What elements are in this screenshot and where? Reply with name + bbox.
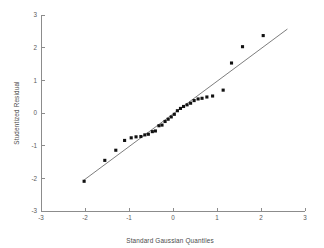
data-point — [164, 120, 167, 123]
data-point — [157, 124, 160, 127]
data-point — [170, 115, 173, 118]
data-point — [205, 95, 208, 98]
y-tick-label: -3 — [31, 207, 37, 214]
y-tick-label: 1 — [33, 77, 37, 84]
data-point — [211, 94, 214, 97]
y-tick-label: 0 — [33, 109, 37, 116]
plot-canvas: -3-2-10123 -3-2-10123 Standard Gaussian … — [0, 0, 324, 248]
data-point — [222, 89, 225, 92]
y-tick-label: 2 — [33, 44, 37, 51]
data-point — [241, 45, 244, 48]
data-point — [179, 107, 182, 110]
x-tick-label: -1 — [126, 214, 132, 221]
x-tick-label: 3 — [303, 214, 307, 221]
data-point — [167, 118, 170, 121]
y-axis-title: Studentized Residual — [13, 81, 20, 144]
x-axis-title: Standard Gaussian Quantiles — [126, 237, 214, 245]
data-point — [134, 135, 137, 138]
y-tick-label: -2 — [31, 175, 37, 182]
data-point — [143, 133, 146, 136]
data-point — [130, 136, 133, 139]
data-point — [103, 159, 106, 162]
data-point — [197, 97, 200, 100]
data-point — [123, 139, 126, 142]
data-point — [182, 105, 185, 108]
x-tick-label: -3 — [38, 214, 44, 221]
x-tick-label: 0 — [171, 214, 175, 221]
data-point — [114, 149, 117, 152]
data-point — [160, 124, 163, 127]
data-point — [186, 103, 189, 106]
data-point — [200, 97, 203, 100]
data-point — [139, 135, 142, 138]
data-point — [189, 102, 192, 105]
data-point — [173, 113, 176, 116]
data-point — [151, 130, 154, 133]
data-point — [154, 129, 157, 132]
x-tick-label: -2 — [82, 214, 88, 221]
data-point — [193, 99, 196, 102]
data-point — [262, 34, 265, 37]
data-point — [83, 180, 86, 183]
y-tick-label: 3 — [33, 11, 37, 18]
data-point — [176, 109, 179, 112]
y-tick-label: -1 — [31, 142, 37, 149]
qq-plot-figure: -3-2-10123 -3-2-10123 Standard Gaussian … — [0, 0, 324, 248]
data-point — [147, 133, 150, 136]
x-tick-label: 2 — [259, 214, 263, 221]
data-point — [230, 61, 233, 64]
x-tick-label: 1 — [215, 214, 219, 221]
